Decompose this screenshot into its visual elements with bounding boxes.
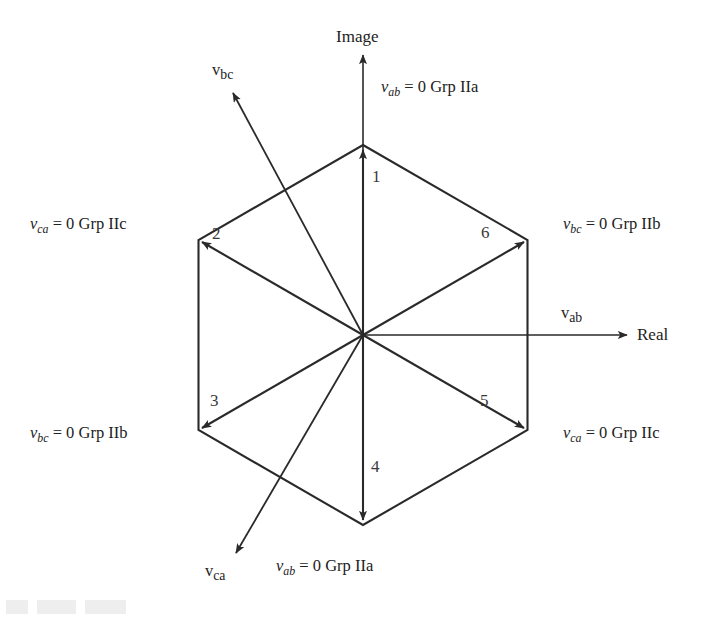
- vertex-label-lower-right-text: = 0 Grp IIc: [582, 423, 660, 442]
- sector-number-5: 5: [480, 392, 489, 409]
- sector-number-2: 2: [212, 225, 221, 242]
- vertex-label-bottom-text: = 0 Grp IIa: [295, 556, 373, 575]
- sector-number-1: 1: [372, 168, 381, 185]
- v-ab-symbol: v: [561, 303, 569, 322]
- v-ab-vector-label: vab: [561, 305, 582, 325]
- sector-number-3: 3: [210, 392, 219, 409]
- vertex-label-lower-left: vbc = 0 Grp IIb: [30, 425, 128, 442]
- v-bc-vector-label: vbc: [212, 62, 233, 82]
- spoke-upper-right: [363, 242, 524, 335]
- vertex-label-upper-left-subscript: ca: [37, 222, 48, 236]
- sector-number-6: 6: [481, 224, 490, 241]
- vertex-label-lower-left-subscript: bc: [37, 431, 48, 445]
- vertex-label-lower-left-text: = 0 Grp IIb: [49, 423, 128, 442]
- v-ca-subscript: ca: [213, 568, 225, 583]
- page-edge-artifact: [6, 600, 126, 614]
- vertex-label-bottom-subscript: ab: [283, 564, 295, 578]
- spoke-lower-right: [363, 335, 524, 428]
- vertex-label-lower-right: vca = 0 Grp IIc: [563, 425, 660, 442]
- vertex-label-upper-right-text: = 0 Grp IIb: [582, 214, 661, 233]
- v-ca-vector-arrow: [236, 335, 363, 553]
- vertex-label-top-text: = 0 Grp IIa: [400, 77, 478, 96]
- vertex-label-lower-right-subscript: ca: [570, 431, 581, 445]
- vertex-label-top-subscript: ab: [388, 85, 400, 99]
- v-ca-symbol: v: [205, 561, 213, 580]
- v-ca-vector-label: vca: [205, 563, 225, 583]
- vertex-label-bottom: vab = 0 Grp IIa: [276, 558, 373, 575]
- vertex-label-upper-left-text: = 0 Grp IIc: [49, 214, 127, 233]
- hexagon-vector-graphic: [0, 0, 716, 623]
- v-bc-symbol: v: [212, 60, 220, 79]
- image-axis-label: Image: [336, 28, 378, 45]
- vertex-label-top: vab = 0 Grp IIa: [381, 79, 478, 96]
- spoke-lower-left: [202, 335, 363, 428]
- v-bc-subscript: bc: [220, 67, 233, 82]
- v-ab-subscript: ab: [569, 310, 582, 325]
- vertex-label-upper-right: vbc = 0 Grp IIb: [563, 216, 661, 233]
- sector-number-4: 4: [371, 458, 380, 475]
- hexagon-diagram: Image Real vab vbc vca vab = 0 Grp IIa v…: [0, 0, 716, 623]
- v-bc-vector-arrow: [233, 93, 363, 335]
- vertex-label-upper-left: vca = 0 Grp IIc: [30, 216, 127, 233]
- real-axis-label: Real: [637, 326, 668, 343]
- vertex-label-upper-right-subscript: bc: [570, 222, 581, 236]
